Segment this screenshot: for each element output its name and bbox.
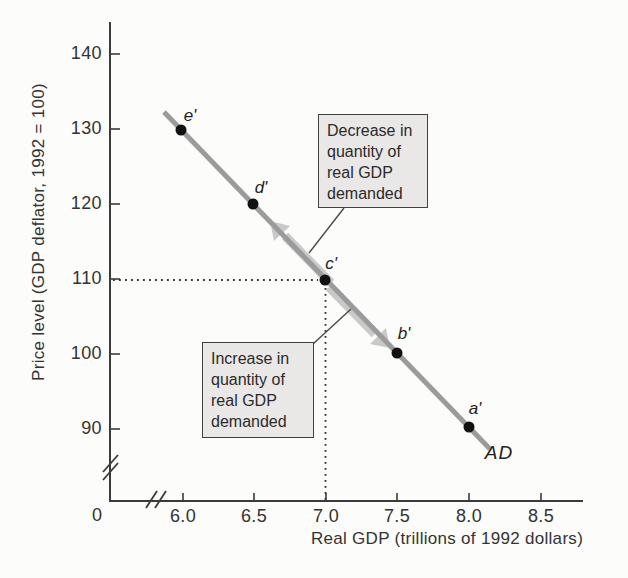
- increase-annotation-line: Increase in: [211, 348, 305, 369]
- y-tick-label-140: 140: [50, 43, 102, 64]
- increase-annotation-box: Increase in quantity of real GDP demande…: [202, 342, 314, 438]
- y-tick-label-90: 90: [50, 418, 102, 439]
- decrease-annotation-line: real GDP: [327, 162, 419, 183]
- ad-curve-label: AD: [477, 442, 521, 464]
- point-dot-b: [392, 348, 403, 359]
- ad-curve-figure: Price level (GDP deflator, 1992 = 100) R…: [0, 0, 628, 578]
- y-tick-label-100: 100: [50, 343, 102, 364]
- y-tick-label-130: 130: [50, 118, 102, 139]
- decrease-annotation-line: quantity of: [327, 141, 419, 162]
- y-axis-title: Price level (GDP deflator, 1992 = 100): [29, 20, 51, 444]
- y-tick-label-120: 120: [50, 193, 102, 214]
- point-dot-c: [320, 275, 331, 286]
- point-dot-a: [464, 422, 475, 433]
- y-tick-label-110: 110: [50, 268, 102, 289]
- point-dot-e: [176, 125, 187, 136]
- x-tick-label-6.5: 6.5: [232, 506, 276, 527]
- point-dot-d: [248, 199, 259, 210]
- point-label-e: e': [174, 106, 206, 126]
- increase-annotation-line: real GDP: [211, 390, 305, 411]
- x-tick-label-7.0: 7.0: [304, 506, 348, 527]
- x-tick-label-8.5: 8.5: [519, 506, 563, 527]
- point-label-d: d': [245, 178, 277, 198]
- point-label-a: a': [459, 399, 491, 419]
- x-tick-label-8.0: 8.0: [447, 506, 491, 527]
- decrease-annotation-line: demanded: [327, 183, 419, 204]
- decrease-annotation-box: Decrease in quantity of real GDP demande…: [318, 114, 428, 208]
- callout-line-increase: [313, 309, 351, 344]
- plot-canvas: [0, 0, 628, 578]
- x-axis-title: Real GDP (trillions of 1992 dollars): [306, 529, 588, 549]
- decrease-annotation-line: Decrease in: [327, 120, 419, 141]
- point-label-b: b': [388, 324, 420, 344]
- x-axis-ticks: [183, 493, 541, 501]
- origin-label: 0: [88, 505, 106, 526]
- x-tick-label-6.0: 6.0: [161, 506, 205, 527]
- point-label-c: c': [315, 254, 347, 274]
- increase-annotation-line: quantity of: [211, 369, 305, 390]
- increase-annotation-line: demanded: [211, 411, 305, 432]
- x-tick-label-7.5: 7.5: [375, 506, 419, 527]
- y-axis-ticks: [110, 54, 120, 429]
- callout-line-decrease: [309, 208, 344, 253]
